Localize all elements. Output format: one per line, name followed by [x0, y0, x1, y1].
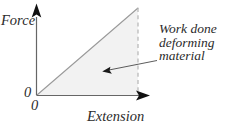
- annotation-line-2: deforming: [159, 36, 217, 50]
- y-axis-label: Force: [1, 13, 35, 28]
- x-axis-label: Extension: [87, 109, 144, 124]
- x-axis-origin-label: 0: [31, 98, 38, 113]
- force-extension-figure: Force Extension 0 0 Work done deforming …: [0, 0, 234, 127]
- work-done-annotation: Work done deforming material: [159, 22, 217, 63]
- annotation-line-3: material: [159, 49, 217, 63]
- annotation-line-1: Work done: [159, 22, 217, 36]
